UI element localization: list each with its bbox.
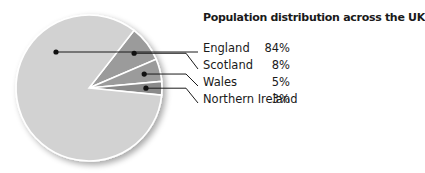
chart-title: Population distribution across the UK	[203, 11, 425, 24]
leader-dot	[53, 49, 58, 54]
legend-value-scotland: 8%	[260, 58, 290, 72]
legend-label-england: England	[203, 41, 250, 55]
pie-slices	[16, 15, 162, 161]
legend-label-wales: Wales	[203, 75, 237, 89]
leader-dot	[132, 51, 137, 56]
leader-dot	[142, 71, 147, 76]
legend-value-england: 84%	[260, 41, 290, 55]
legend-value-northern-ireland: 3%	[260, 92, 290, 106]
legend-label-scotland: Scotland	[203, 58, 253, 72]
leader-dot	[143, 86, 148, 91]
legend-value-wales: 5%	[260, 75, 290, 89]
